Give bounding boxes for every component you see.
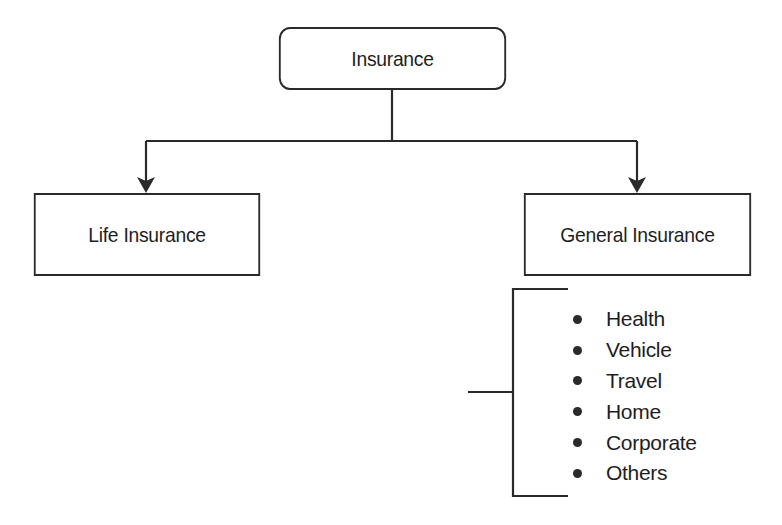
list-item-label: Vehicle	[606, 338, 672, 362]
list-item-label: Travel	[606, 369, 662, 393]
list-item-label: Others	[606, 461, 667, 485]
list-item: Others	[570, 458, 697, 489]
node-life-insurance: Life Insurance	[34, 193, 260, 276]
root-node-label: Insurance	[351, 47, 433, 71]
node-label: Life Insurance	[88, 223, 206, 247]
list-item-label: Corporate	[606, 431, 697, 455]
list-item: Health	[570, 304, 697, 335]
general-insurance-types-list: Health Vehicle Travel Home Corporate Oth…	[570, 304, 697, 489]
bullet-icon	[573, 376, 582, 385]
node-general-insurance: General Insurance	[524, 193, 751, 276]
bullet-icon	[573, 438, 582, 447]
node-label: General Insurance	[560, 223, 714, 247]
list-item: Vehicle	[570, 335, 697, 366]
list-item: Home	[570, 396, 697, 427]
list-item-label: Home	[606, 400, 661, 424]
list-item: Corporate	[570, 427, 697, 458]
bullet-icon	[573, 469, 582, 478]
bullet-icon	[573, 407, 582, 416]
bullet-icon	[573, 315, 582, 324]
bullet-icon	[573, 346, 582, 355]
list-item: Travel	[570, 366, 697, 397]
list-item-label: Health	[606, 307, 665, 331]
root-node-insurance: Insurance	[279, 27, 506, 90]
types-bracket	[513, 289, 568, 496]
